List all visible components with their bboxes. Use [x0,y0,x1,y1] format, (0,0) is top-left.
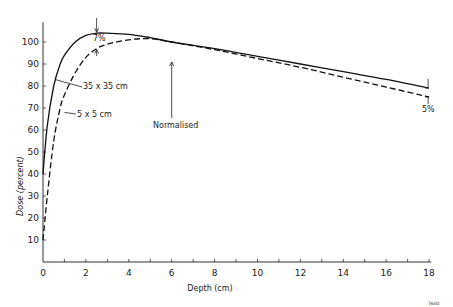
normalised-label: Normalised [153,121,198,130]
label-leader-5x5 [64,112,76,114]
y-tick-label: 40 [28,169,40,179]
y-axis-title: Dose (percent) [16,156,25,216]
data-series [43,33,429,240]
x-tick-label: 14 [338,268,350,278]
y-tick-label: 20 [28,213,40,223]
series-label-5x5: 5 x 5 cm [77,110,112,119]
y-tick-label: 60 [28,125,40,135]
end-difference-label: 5% [422,105,435,114]
axes [43,22,431,262]
x-tick-label: 18 [423,268,435,278]
y-tick-label: 80 [28,81,40,91]
figure-id: 7600 [428,301,440,306]
y-axis-ticks: 102030405060708090100 [22,37,46,245]
y-tick-label: 90 [28,59,40,69]
x-tick-label: 2 [83,268,89,278]
x-tick-label: 4 [126,268,132,278]
x-axis-title: Depth (cm) [187,284,232,293]
x-tick-label: 0 [40,268,46,278]
x-tick-label: 10 [252,268,264,278]
x-tick-label: 8 [212,268,218,278]
series-5x5-dashed-line [43,39,429,240]
x-tick-label: 6 [169,268,175,278]
peak-difference-label: 7% [93,34,106,43]
y-tick-label: 50 [28,147,40,157]
y-tick-label: 30 [28,191,40,201]
series-label-35x35: 35 x 35 cm [83,82,128,91]
depth-dose-chart: 024681012141618 102030405060708090100 De… [0,0,453,307]
y-tick-label: 10 [28,235,40,245]
annotations: Depth (cm) Dose (percent) 35 x 35 cm 5 x… [16,18,440,306]
x-tick-label: 12 [295,268,306,278]
x-tick-label: 16 [380,268,392,278]
y-tick-label: 100 [22,37,39,47]
y-tick-label: 70 [28,103,40,113]
